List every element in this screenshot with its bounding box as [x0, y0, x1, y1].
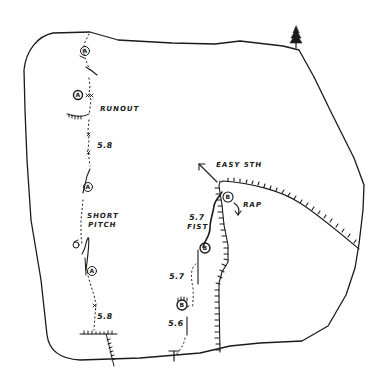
crag-outline: [24, 32, 364, 360]
svg-text:A: A: [86, 183, 91, 190]
route-a-corner: [86, 67, 97, 75]
label-grade-5-8-lower: 5.8: [96, 313, 113, 321]
tree-icon: [290, 26, 302, 48]
label-pitch: PITCH: [87, 221, 117, 229]
piton-icon: [73, 240, 79, 248]
route-a-lean: [85, 258, 86, 275]
route-b-dotted-upper: [191, 264, 196, 308]
label-short: SHORT: [86, 212, 119, 220]
route-b-dotted-start: [175, 338, 185, 356]
label-grade-5-7-fist: 5.7: [188, 214, 205, 222]
svg-text:A: A: [90, 267, 95, 274]
upper-ledge: [221, 178, 359, 249]
svg-text:B: B: [180, 301, 185, 308]
label-runout: RUNOUT: [99, 105, 139, 113]
belay-ledge: [80, 331, 117, 366]
rappel-arrow-icon: [234, 203, 241, 215]
arrow-icon: [199, 164, 217, 182]
dihedral-line: [215, 181, 228, 352]
svg-text:B: B: [226, 193, 231, 200]
label-rap: RAP: [242, 201, 262, 209]
label-grade-5-8-upper: 5.8: [96, 142, 113, 150]
svg-text:B: B: [203, 244, 208, 251]
roof-overhang: [67, 114, 89, 119]
svg-text:A: A: [76, 91, 81, 98]
route-a-line: [81, 34, 96, 330]
label-easy-5th: EASY 5TH: [215, 161, 262, 169]
label-grade-5-6: 5.6: [167, 320, 184, 328]
topo-drawing: A A A A B B B: [0, 0, 389, 390]
label-fist: FIST: [186, 223, 208, 231]
svg-text:A: A: [83, 47, 88, 54]
label-grade-5-7-middle: 5.7: [168, 273, 185, 281]
